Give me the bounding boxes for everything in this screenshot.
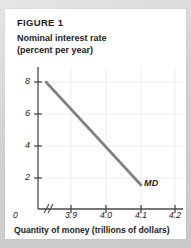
- y-tick-label-8: 8: [16, 76, 30, 86]
- x-tick-label-4-2: 4.2: [163, 210, 187, 220]
- money-demand-curve: [46, 82, 141, 185]
- y-tick-label-6: 6: [16, 108, 30, 118]
- plot-area: 8 6 4 2 3.9 4.0 4.1 4.2 0 MD: [5, 9, 186, 239]
- y-tick-label-4: 4: [16, 140, 30, 150]
- figure-card: FIGURE 1 Nominal interest rate (percent …: [5, 9, 186, 239]
- figure-page: FIGURE 1 Nominal interest rate (percent …: [0, 0, 191, 248]
- x-tick-label-3-9: 3.9: [59, 210, 83, 220]
- vertical-gridlines: [71, 67, 175, 209]
- x-tick-label-4-0: 4.0: [94, 210, 118, 220]
- y-tick-label-2: 2: [16, 172, 30, 182]
- money-demand-curve-label: MD: [144, 178, 158, 188]
- x-axis-title: Quantity of money (trillions of dollars): [14, 225, 170, 235]
- x-axis-origin-label: 0: [13, 210, 18, 220]
- x-tick-label-4-1: 4.1: [129, 210, 153, 220]
